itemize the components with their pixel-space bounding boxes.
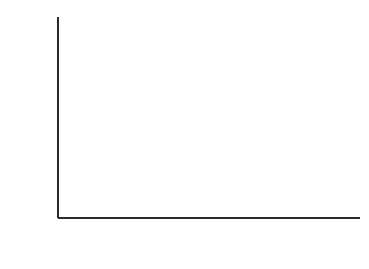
axes-group xyxy=(58,17,360,218)
stress-relaxation-chart xyxy=(0,0,369,269)
figure-container xyxy=(0,0,369,269)
